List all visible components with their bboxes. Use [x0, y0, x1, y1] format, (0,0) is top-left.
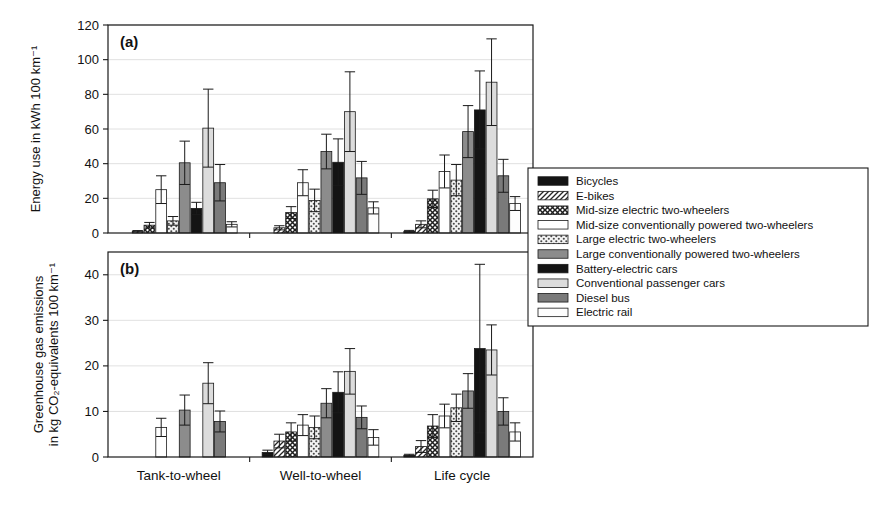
legend-item[interactable]: Large electric two-wheelers [538, 233, 716, 245]
chart-panel-a: 020406080100120(a)Energy use in kWh 100 … [28, 18, 533, 241]
legend-label: Conventional passenger cars [576, 277, 725, 289]
y-tick-label: 60 [85, 122, 99, 137]
legend-label: Mid-size electric two-wheelers [576, 204, 730, 216]
legend-swatch [538, 191, 568, 200]
legend-label: Diesel bus [576, 292, 630, 304]
y-axis-title: Greenhouse gas emissionsin kg CO₂-equiva… [31, 262, 61, 446]
y-tick-label: 80 [85, 87, 99, 102]
legend-item[interactable]: Diesel bus [538, 292, 630, 304]
legend-swatch [538, 264, 568, 273]
legend-item[interactable]: Large conventionally powered two-wheeler… [538, 248, 800, 260]
legend-item[interactable]: Conventional passenger cars [538, 277, 725, 289]
legend-item[interactable]: Battery-electric cars [538, 263, 678, 275]
legend-swatch [538, 294, 568, 303]
legend-label: Battery-electric cars [576, 263, 678, 275]
y-tick-label: 100 [77, 52, 99, 67]
legend-swatch [538, 250, 568, 259]
y-tick-label: 10 [85, 404, 99, 419]
legend-label: E-bikes [576, 190, 615, 202]
chart-panel-b: 010203040(b)Tank-to-wheelWell-to-wheelLi… [31, 252, 533, 483]
legend-label: Large conventionally powered two-wheeler… [576, 248, 800, 260]
y-tick-label: 20 [85, 191, 99, 206]
y-tick-label: 30 [85, 313, 99, 328]
y-axis-title: Energy use in kWh 100 km⁻¹ [28, 45, 43, 212]
chart-figure: 020406080100120(a)Energy use in kWh 100 … [0, 0, 879, 514]
y-tick-label: 0 [92, 226, 99, 241]
figure-container: 020406080100120(a)Energy use in kWh 100 … [0, 0, 879, 514]
legend-swatch [538, 279, 568, 288]
category-label: Life cycle [434, 468, 490, 483]
legend-swatch [538, 235, 568, 244]
legend-item[interactable]: Mid-size electric two-wheelers [538, 204, 730, 216]
legend-swatch [538, 177, 568, 186]
legend-item[interactable]: Bicycles [538, 175, 618, 187]
y-tick-label: 0 [92, 450, 99, 465]
legend-item[interactable]: E-bikes [538, 190, 615, 202]
panel-tag: (b) [120, 260, 139, 277]
legend-item[interactable]: Electric rail [538, 306, 632, 318]
legend-item[interactable]: Mid-size conventionally powered two-whee… [538, 219, 813, 231]
y-tick-label: 20 [85, 358, 99, 373]
legend: BicyclesE-bikesMid-size electric two-whe… [528, 168, 868, 326]
legend-label: Large electric two-wheelers [576, 233, 716, 245]
legend-swatch [538, 206, 568, 215]
y-tick-label: 40 [85, 267, 99, 282]
legend-swatch [538, 221, 568, 230]
legend-label: Bicycles [576, 175, 618, 187]
panel-tag: (a) [120, 33, 138, 50]
legend-label: Mid-size conventionally powered two-whee… [576, 219, 813, 231]
category-label: Tank-to-wheel [137, 468, 221, 483]
y-tick-label: 40 [85, 156, 99, 171]
y-tick-label: 120 [77, 18, 99, 33]
category-label: Well-to-wheel [280, 468, 362, 483]
legend-swatch [538, 308, 568, 317]
legend-label: Electric rail [576, 306, 632, 318]
